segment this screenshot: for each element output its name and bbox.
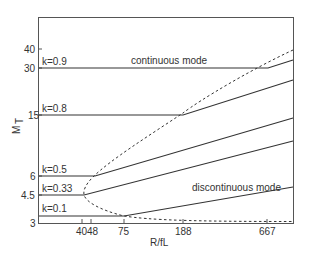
x-tick-75: 75 (118, 226, 130, 237)
x-tick-667: 667 (259, 226, 276, 237)
x-tick-188: 188 (175, 226, 192, 237)
y-axis-label: M T (11, 118, 25, 134)
line-k-0-8 (39, 80, 293, 115)
label-k-0-9: k=0.9 (42, 56, 67, 67)
x-tick-40: 40 (76, 226, 88, 237)
svg-text:M: M (11, 126, 22, 134)
discontinuous-mode-label: discontinuous mode (192, 182, 281, 193)
y-tick-30: 30 (24, 63, 36, 74)
mode-boundary-curve (84, 50, 293, 222)
line-k-0-5 (39, 118, 293, 176)
chart-canvas: 40 30 15 6 4.5 3 M T 40 48 75 188 667 R/… (0, 0, 310, 256)
y-tick-15: 15 (28, 110, 40, 121)
continuous-mode-label: continuous mode (131, 55, 208, 66)
x-axis-label: R/fL (150, 237, 169, 248)
y-tick-4-5: 4.5 (21, 190, 35, 201)
y-tick-6: 6 (30, 171, 36, 182)
label-k-0-8: k=0.8 (42, 103, 67, 114)
svg-text:T: T (14, 118, 25, 124)
y-tick-3: 3 (30, 218, 36, 229)
label-k-0-5: k=0.5 (42, 164, 67, 175)
label-k-0-33: k=0.33 (42, 183, 73, 194)
y-tick-40: 40 (24, 44, 36, 55)
x-tick-48: 48 (87, 226, 99, 237)
label-k-0-1: k=0.1 (42, 203, 67, 214)
